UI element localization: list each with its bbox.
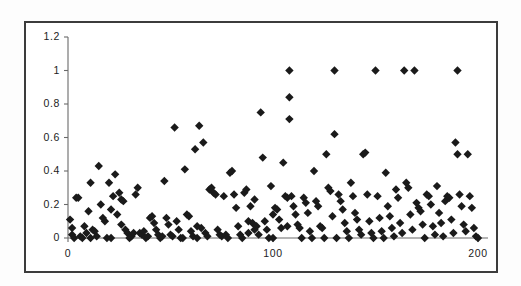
scatter-plot-figure: 00.20.40.60.811.20100200	[0, 0, 521, 286]
y-tick-label: 0.2	[14, 198, 60, 210]
y-tick-label: 0.6	[14, 131, 60, 143]
y-tick-label: 0.4	[14, 164, 60, 176]
chart-frame	[24, 21, 498, 273]
x-tick-label: 0	[48, 247, 88, 259]
y-tick-label: 1	[14, 64, 60, 76]
y-tick-label: 1.2	[14, 30, 60, 42]
y-tick-label: 0.8	[14, 97, 60, 109]
x-tick-label: 200	[458, 247, 498, 259]
y-tick-label: 0	[14, 231, 60, 243]
x-tick-label: 100	[253, 247, 293, 259]
